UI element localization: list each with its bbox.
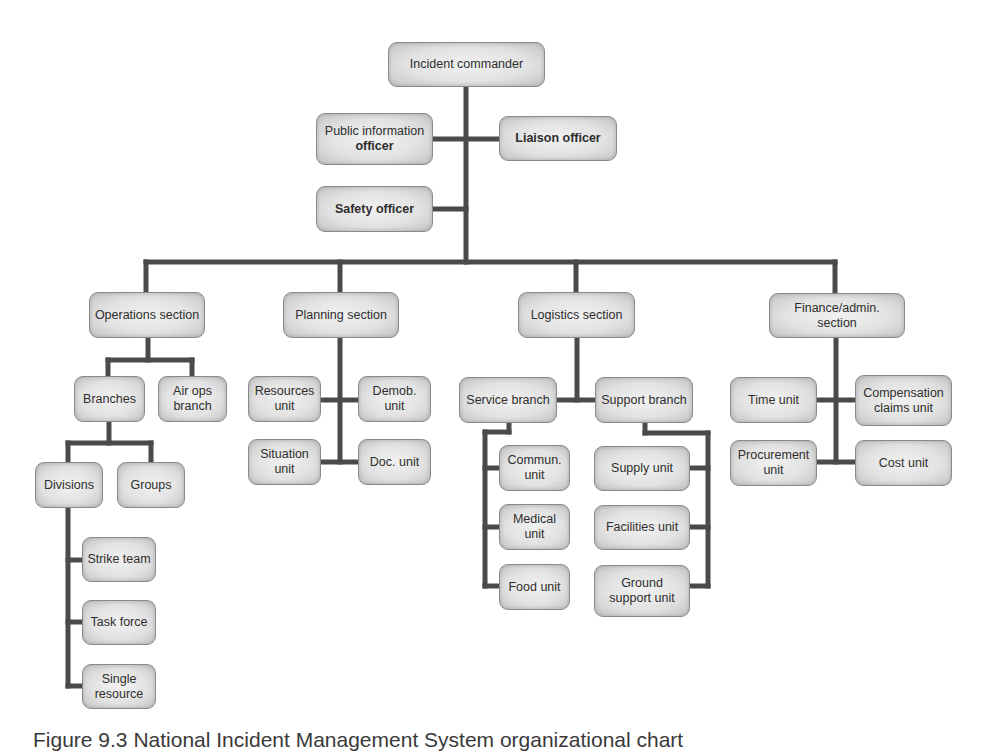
node-branches: Branches	[74, 376, 145, 422]
node-label: Strike team	[87, 552, 150, 567]
node-food-unit: Food unit	[499, 564, 570, 610]
node-label: Single resource	[93, 672, 145, 702]
node-label: Doc. unit	[370, 455, 419, 470]
node-label: Planning section	[295, 308, 387, 323]
node-medical-unit: Medical unit	[499, 504, 570, 550]
node-liaison-officer: Liaison officer	[499, 116, 617, 161]
node-label: Cost unit	[879, 456, 928, 471]
node-label: Procurement unit	[734, 448, 813, 478]
node-label: Divisions	[44, 478, 94, 493]
node-label: Public informationofficer	[325, 124, 424, 154]
node-planning-section: Planning section	[283, 292, 399, 338]
node-label: Groups	[131, 478, 172, 493]
node-service-branch: Service branch	[459, 377, 557, 423]
node-single-resource: Single resource	[82, 664, 156, 709]
node-facilities-unit: Facilities unit	[594, 505, 690, 550]
node-label: Branches	[83, 392, 136, 407]
node-ground-support-unit: Ground support unit	[594, 565, 690, 617]
node-compensation-claims-unit: Compensation claims unit	[855, 375, 952, 426]
node-procurement-unit: Procurement unit	[730, 440, 817, 486]
node-label: Air ops branch	[167, 384, 218, 414]
node-task-force: Task force	[82, 600, 156, 645]
node-commun-unit: Commun. unit	[499, 445, 570, 491]
node-label: Support branch	[601, 393, 686, 408]
node-divisions: Divisions	[35, 462, 103, 508]
node-label: Resources unit	[255, 384, 315, 414]
node-groups: Groups	[117, 462, 185, 508]
node-label: Food unit	[508, 580, 560, 595]
node-finance-admin-section: Finance/admin. section	[769, 293, 905, 338]
figure-caption: Figure 9.3 National Incident Management …	[33, 728, 683, 752]
node-demob-unit: Demob. unit	[358, 376, 431, 422]
node-label: Facilities unit	[606, 520, 678, 535]
node-label: Safety officer	[335, 202, 414, 217]
node-label: Liaison officer	[515, 131, 600, 146]
node-label: Service branch	[466, 393, 549, 408]
node-label: Ground support unit	[599, 576, 685, 606]
node-label: Time unit	[748, 393, 799, 408]
node-label: Incident commander	[410, 57, 523, 72]
node-public-information-officer: Public informationofficer	[316, 113, 433, 165]
node-label: Commun. unit	[507, 453, 561, 483]
node-logistics-section: Logistics section	[518, 292, 635, 338]
node-supply-unit: Supply unit	[594, 446, 690, 491]
node-label: Operations section	[95, 308, 199, 323]
node-label: Logistics section	[531, 308, 623, 323]
node-doc-unit: Doc. unit	[358, 439, 431, 485]
node-label: Situation unit	[259, 447, 310, 477]
node-operations-section: Operations section	[89, 292, 205, 338]
node-time-unit: Time unit	[730, 377, 817, 423]
node-resources-unit: Resources unit	[248, 376, 321, 422]
node-label: Compensation claims unit	[860, 386, 947, 416]
node-incident-commander: Incident commander	[388, 42, 545, 87]
node-situation-unit: Situation unit	[248, 439, 321, 485]
node-label: Supply unit	[611, 461, 673, 476]
node-label: Finance/admin. section	[773, 301, 901, 331]
node-safety-officer: Safety officer	[316, 186, 433, 232]
node-label: Medical unit	[510, 512, 559, 542]
node-strike-team: Strike team	[82, 537, 156, 582]
node-air-ops-branch: Air ops branch	[158, 376, 227, 422]
node-cost-unit: Cost unit	[855, 440, 952, 486]
node-label: Task force	[91, 615, 148, 630]
node-support-branch: Support branch	[595, 377, 693, 423]
node-label: Demob. unit	[371, 384, 418, 414]
